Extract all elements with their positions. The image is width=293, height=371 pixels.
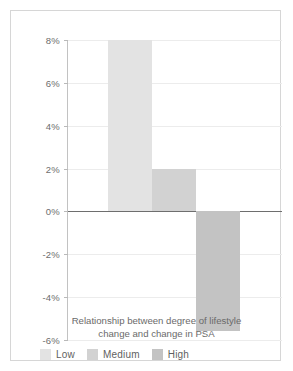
gridline	[68, 83, 282, 84]
y-axis-tick-mark	[64, 40, 68, 41]
y-axis-tick-label: -2%	[43, 249, 61, 260]
y-axis-tick-label: -4%	[43, 292, 61, 303]
legend-swatch-icon	[40, 349, 51, 360]
y-axis-tick-mark	[64, 83, 68, 84]
chart-legend: LowMediumHigh	[40, 349, 201, 360]
y-axis-tick-mark	[64, 126, 68, 127]
legend-item-medium[interactable]: Medium	[87, 349, 140, 360]
y-axis-tick-mark	[64, 297, 68, 298]
y-axis-tick-mark	[64, 254, 68, 255]
gridline	[68, 126, 282, 127]
legend-label: High	[168, 349, 189, 360]
y-axis-tick-label: 4%	[46, 120, 60, 131]
legend-label: Low	[56, 349, 75, 360]
chart-caption: Relationship between degree of lifestyle…	[31, 314, 282, 340]
y-axis-tick-label: 6%	[46, 77, 60, 88]
legend-item-low[interactable]: Low	[40, 349, 75, 360]
figure-frame: 8%6%4%2%0%-2%-4%-6% Relationship between…	[10, 10, 281, 361]
gridline	[68, 40, 282, 41]
bar-low	[108, 40, 152, 211]
chart-figure: 8%6%4%2%0%-2%-4%-6% Relationship between…	[0, 0, 293, 371]
legend-item-high[interactable]: High	[152, 349, 189, 360]
gridline	[68, 254, 282, 255]
y-axis-spine	[67, 40, 68, 340]
legend-label: Medium	[103, 349, 140, 360]
plot-area: 8%6%4%2%0%-2%-4%-6%	[68, 40, 282, 340]
y-axis-tick-mark	[64, 340, 68, 341]
legend-swatch-icon	[87, 349, 98, 360]
y-axis-tick-mark	[64, 211, 68, 212]
legend-swatch-icon	[152, 349, 163, 360]
y-axis-tick-label: 2%	[46, 163, 60, 174]
gridline	[68, 297, 282, 298]
y-axis-tick-label: 8%	[46, 35, 60, 46]
bar-medium	[152, 169, 196, 212]
y-axis-tick-mark	[64, 169, 68, 170]
y-axis-tick-label: 0%	[46, 206, 60, 217]
caption-line-2: change and change in PSA	[31, 327, 282, 340]
caption-line-1: Relationship between degree of lifestyle	[31, 314, 282, 327]
zero-line	[68, 211, 282, 212]
gridline	[68, 340, 282, 341]
